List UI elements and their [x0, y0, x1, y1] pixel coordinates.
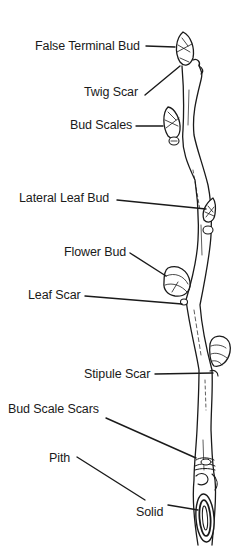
label-twig-scar: Twig Scar — [84, 86, 138, 99]
twig-diagram: False Terminal Bud Twig Scar Bud Scales … — [0, 0, 243, 554]
label-bud-scale-scars: Bud Scale Scars — [8, 403, 99, 416]
label-bud-scales: Bud Scales — [70, 119, 132, 132]
bud-scales-shape — [164, 107, 180, 145]
label-lateral-leaf-bud: Lateral Leaf Bud — [19, 192, 109, 205]
leader-false-terminal-bud — [146, 46, 175, 47]
twig-stem — [182, 65, 216, 545]
lateral-leaf-bud-shape — [203, 198, 215, 234]
twig-illustration — [0, 0, 243, 554]
label-flower-bud: Flower Bud — [64, 246, 126, 259]
cut-end-shape — [194, 493, 215, 542]
leader-bud-scale-scars — [106, 418, 196, 458]
leader-twig-scar — [145, 66, 180, 95]
leader-pith — [77, 457, 145, 500]
label-stipule-scar: Stipule Scar — [84, 368, 150, 381]
flower-bud-shape — [164, 267, 190, 305]
label-solid: Solid — [136, 506, 163, 519]
leader-flower-bud — [130, 253, 166, 276]
label-leaf-scar: Leaf Scar — [28, 289, 81, 302]
label-pith: Pith — [49, 452, 70, 465]
leader-lateral-leaf-bud — [117, 200, 206, 209]
leader-stipule-scar — [155, 373, 213, 374]
label-false-terminal-bud: False Terminal Bud — [35, 40, 140, 53]
leader-leaf-scar — [85, 296, 182, 304]
lower-lateral-bud-shape — [210, 336, 231, 376]
false-terminal-bud-shape — [176, 32, 202, 74]
